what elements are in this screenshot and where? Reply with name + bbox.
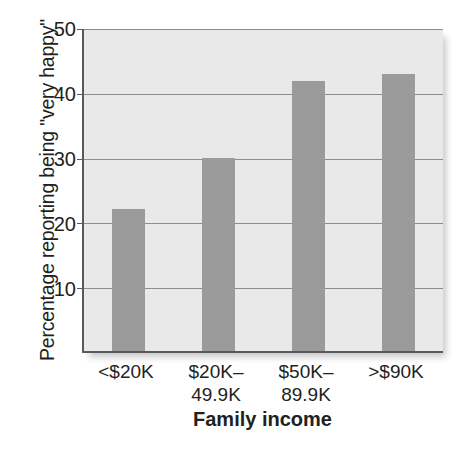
x-tick-label-line: 49.9K bbox=[166, 383, 266, 406]
bar-chart-figure: Percentage reporting being "very happy" … bbox=[0, 0, 472, 450]
y-tick-label-10: 10 bbox=[42, 279, 76, 299]
x-tick-label-over-90k: >$90K bbox=[346, 360, 446, 383]
y-tick-label-50: 50 bbox=[42, 19, 76, 39]
x-tick-label-line: >$90K bbox=[346, 360, 446, 383]
x-tick-label-line: $50K– bbox=[256, 360, 356, 383]
y-tick-label-40: 40 bbox=[42, 84, 76, 104]
x-axis-tick-labels: <$20K $20K– 49.9K $50K– 89.9K >$90K bbox=[82, 360, 443, 410]
x-tick-label-20k-49-9k: $20K– 49.9K bbox=[166, 360, 266, 406]
bar-under-20k bbox=[112, 209, 145, 351]
y-tickmark-20 bbox=[77, 223, 84, 224]
y-tick-label-30: 30 bbox=[42, 149, 76, 169]
y-axis-tick-labels: 50 40 30 20 10 bbox=[40, 0, 76, 450]
bar-50k-89-9k bbox=[292, 81, 325, 351]
y-tickmark-30 bbox=[77, 159, 84, 160]
y-tickmark-10 bbox=[77, 288, 84, 289]
y-tickmark-40 bbox=[77, 94, 84, 95]
x-axis-title: Family income bbox=[82, 408, 443, 431]
y-tick-label-20: 20 bbox=[42, 214, 76, 234]
bar-20k-49-9k bbox=[202, 158, 235, 351]
gridline-50 bbox=[84, 29, 443, 30]
x-tick-label-line: $20K– bbox=[166, 360, 266, 383]
x-tick-label-under-20k: <$20K bbox=[76, 360, 176, 383]
bar-over-90k bbox=[382, 74, 415, 351]
x-tick-label-line: <$20K bbox=[76, 360, 176, 383]
x-tick-label-50k-89-9k: $50K– 89.9K bbox=[256, 360, 356, 406]
x-tick-label-line: 89.9K bbox=[256, 383, 356, 406]
y-tickmark-50 bbox=[77, 29, 84, 30]
plot-area bbox=[82, 29, 443, 353]
